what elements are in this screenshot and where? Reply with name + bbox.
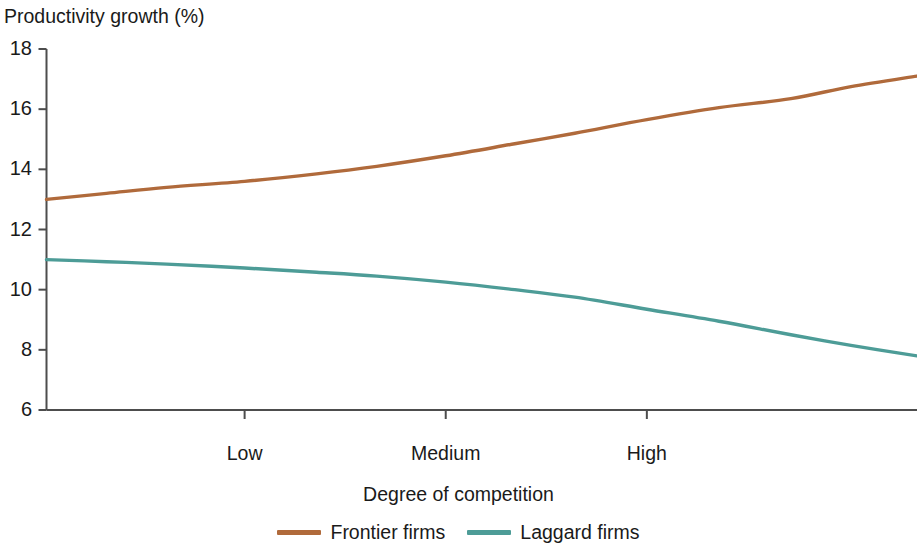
- y-tick-label: 12: [2, 219, 32, 239]
- y-tick-label: 8: [2, 339, 32, 359]
- legend-label: Laggard firms: [520, 521, 639, 543]
- y-tick-label: 14: [2, 158, 32, 178]
- x-axis-title: Degree of competition: [0, 483, 917, 505]
- axis-lines: [39, 49, 917, 419]
- y-tick-label: 18: [2, 38, 32, 58]
- chart-figure: Productivity growth (%) 181614121086 Low…: [0, 0, 917, 548]
- x-tick-label: Low: [175, 443, 315, 463]
- legend-swatch-line-icon: [467, 530, 511, 535]
- chart-legend: Frontier firmsLaggard firms: [0, 521, 917, 543]
- plot-area: [0, 0, 917, 548]
- x-tick-label: High: [577, 443, 717, 463]
- x-tick-label: Medium: [376, 443, 516, 463]
- legend-item[interactable]: Frontier firms: [277, 521, 445, 543]
- legend-label: Frontier firms: [330, 521, 445, 543]
- legend-swatch-line-icon: [277, 530, 321, 535]
- y-tick-label: 6: [2, 399, 32, 419]
- y-tick-label: 16: [2, 98, 32, 118]
- series-lines: [47, 76, 917, 356]
- legend-item[interactable]: Laggard firms: [467, 521, 639, 543]
- series-line-frontier-firms: [47, 76, 917, 199]
- y-tick-label: 10: [2, 279, 32, 299]
- series-line-laggard-firms: [47, 260, 917, 356]
